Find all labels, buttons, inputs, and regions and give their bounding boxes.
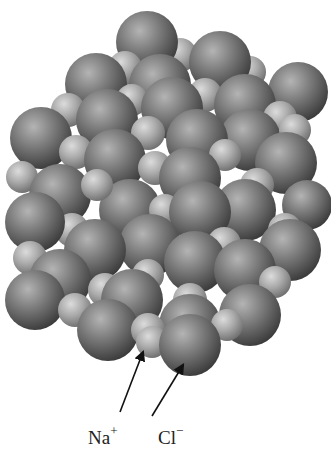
na-arrow-icon xyxy=(120,352,143,412)
chloride-ion-sphere xyxy=(77,299,139,361)
sodium-ion-sphere xyxy=(81,169,113,201)
nacl-lattice-figure: Na+ Cl− xyxy=(0,0,331,459)
cl-ion-charge: − xyxy=(176,423,183,438)
chloride-ion-sphere xyxy=(5,270,65,330)
na-ion-label: Na+ xyxy=(88,426,118,447)
cl-arrow-icon xyxy=(152,365,183,416)
crystal-lattice-illustration xyxy=(0,0,331,459)
ion-spheres xyxy=(5,11,331,376)
chloride-ion-sphere xyxy=(159,314,221,376)
na-ion-charge: + xyxy=(110,423,117,438)
cl-ion-label: Cl− xyxy=(158,426,183,447)
cl-ion-symbol: Cl xyxy=(158,427,176,448)
na-ion-symbol: Na xyxy=(88,427,110,448)
